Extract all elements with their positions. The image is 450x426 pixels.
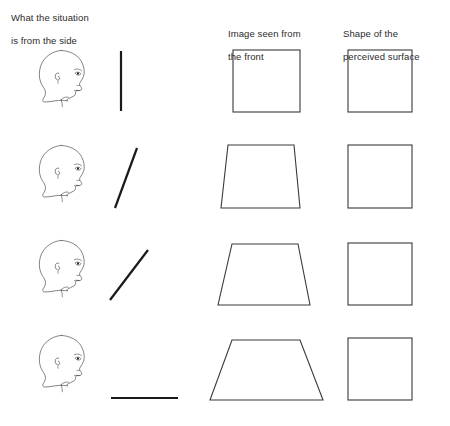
column-header-shape: Shape of the perceived surface xyxy=(332,16,420,74)
row-1-observer-head xyxy=(39,50,84,106)
row-3-retinal-image-trapezoid xyxy=(218,244,310,305)
column-header-front-line1: Image seen from xyxy=(228,28,301,39)
column-header-side: What the situation is from the side xyxy=(0,0,89,58)
row-4 xyxy=(39,335,412,400)
column-header-front-line2: the front xyxy=(228,51,264,62)
row-4-perceived-shape-square xyxy=(348,338,412,400)
row-4-observer-head xyxy=(39,335,84,391)
row-2 xyxy=(39,145,412,208)
column-header-front: Image seen from the front xyxy=(217,16,301,74)
row-3-observer-head xyxy=(39,240,84,296)
row-2-retinal-image-trapezoid xyxy=(221,145,300,208)
row-2-observer-head xyxy=(39,145,84,201)
column-header-shape-line1: Shape of the xyxy=(343,28,398,39)
column-header-side-line1: What the situation xyxy=(11,12,89,23)
row-4-retinal-image-trapezoid xyxy=(210,340,323,400)
row-3-surface-line xyxy=(110,250,148,300)
shape-constancy-figure: What the situation is from the side Imag… xyxy=(0,0,450,426)
row-3 xyxy=(39,240,412,305)
row-3-perceived-shape-square xyxy=(348,243,412,305)
row-2-surface-line xyxy=(115,148,137,208)
column-header-shape-line2: perceived surface xyxy=(343,51,420,62)
column-header-side-line2: is from the side xyxy=(11,35,77,46)
row-2-perceived-shape-square xyxy=(348,145,412,208)
